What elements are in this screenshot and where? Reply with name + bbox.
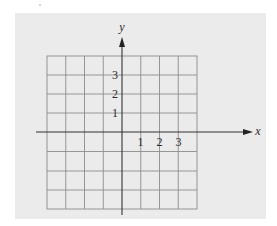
y-tick-label: 1 xyxy=(112,107,118,119)
x-tick-label: 3 xyxy=(176,136,182,148)
x-axis-arrow-icon xyxy=(243,129,253,135)
y-tick-label: 2 xyxy=(112,88,118,100)
y-axis-label: y xyxy=(119,21,124,33)
x-axis-label: x xyxy=(255,125,260,137)
coordinate-plane xyxy=(0,0,277,226)
y-axis-arrow-icon xyxy=(119,37,125,47)
x-tick-label: 1 xyxy=(138,136,144,148)
x-tick-label: 2 xyxy=(157,136,163,148)
y-tick-label: 3 xyxy=(112,69,118,81)
